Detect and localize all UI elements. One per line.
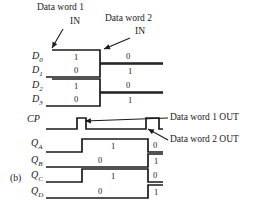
signal-label-subscript: A [38,143,42,151]
bit-value-D1-1: 1 [125,66,135,76]
signal-label-subscript: B [38,160,42,168]
signal-label-text: CP [27,113,40,124]
signal-label-subscript: 0 [39,56,43,64]
annotation-data-word-2-in-line1: Data word 2 [105,13,152,24]
annotation-data-word-2-in-line2: IN [135,26,145,37]
data-word-1-out-leader [85,118,168,121]
bit-value-QA-1: 1 [108,141,118,151]
waveform-D1 [46,64,163,77]
signal-label-subscript: 2 [39,85,43,93]
signal-label-D1: D1 [32,64,43,78]
annotation-data-word-2-out-line1: Data word 2 OUT [170,134,239,145]
waveform-CP [46,118,163,129]
signal-label-D2: D2 [32,79,43,93]
signal-label-QA: QA [31,137,43,151]
bit-value-QB-1: 1 [151,156,161,166]
waveform-QC [46,169,163,182]
signal-label-CP: CP [27,113,40,124]
signal-label-subscript: 1 [39,70,43,78]
signal-label-subscript: D [38,191,43,199]
signal-label-QB: QB [31,154,43,168]
bit-value-QB-0: 0 [95,155,105,165]
bit-value-QD-1: 1 [151,187,161,197]
waveform-D0 [52,50,163,63]
signal-label-QC: QC [31,169,43,183]
bit-value-D3-1: 1 [125,95,135,105]
signal-label-subscript: 3 [39,99,43,107]
annotation-data-word-1-in-line2: IN [70,16,80,27]
bit-value-D0-1: 0 [123,51,133,61]
bit-value-QA-2: 0 [150,140,160,150]
signal-label-QD: QD [31,185,43,199]
bit-value-D2-0: 1 [71,81,81,91]
signal-label-D0: D0 [32,50,43,64]
bit-value-QC-1: 1 [108,171,118,181]
waveform-D3 [46,93,163,106]
waveform-D2 [52,79,163,92]
signal-label-subscript: C [38,175,43,183]
signal-label-D3: D3 [32,93,43,107]
bit-value-QC-2: 0 [150,170,160,180]
annotation-data-word-1-out-line1: Data word 1 OUT [170,112,239,123]
bit-value-QD-0: 0 [95,186,105,196]
annotation-data-word-1-in-line1: Data word 1 [37,2,84,13]
bit-value-D0-0: 1 [71,52,81,62]
waveform-QA [46,139,163,152]
bit-value-D1-0: 0 [71,65,81,75]
bit-value-D2-1: 0 [123,80,133,90]
bit-value-D3-0: 0 [71,94,81,104]
panel-label-b: (b) [10,173,21,183]
timing-diagram-figure: D0D1D2D3CPQAQBQCQD 1001100110011001 Data… [0,0,257,220]
